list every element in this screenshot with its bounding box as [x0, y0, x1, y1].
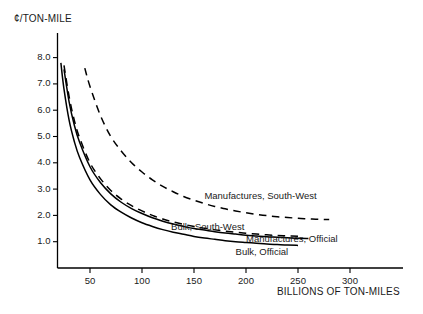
y-tick-label: 4.0 — [25, 156, 51, 167]
series-label: Manufactures, South-West — [204, 190, 316, 201]
x-tick-label: 50 — [72, 275, 108, 286]
series-label: Bulk, Official — [236, 246, 289, 257]
x-tick-label: 300 — [332, 275, 368, 286]
y-tick-label: 3.0 — [25, 183, 51, 194]
y-tick-label: 8.0 — [25, 51, 51, 62]
y-tick-label: 1.0 — [25, 235, 51, 246]
y-tick-label: 7.0 — [25, 77, 51, 88]
x-tick-label: 150 — [176, 275, 212, 286]
axes — [58, 33, 404, 268]
x-tick-label: 250 — [280, 275, 316, 286]
series-label: Bulk, South-West — [171, 221, 244, 232]
series-curve — [64, 65, 298, 236]
series-label: Manufactures, Official — [246, 233, 338, 244]
data-series — [61, 63, 329, 246]
series-curve — [61, 63, 298, 246]
y-tick-label: 2.0 — [25, 209, 51, 220]
series-curve — [64, 69, 308, 238]
chart-figure: ¢/TON-MILE BILLIONS OF TON-MILES 1.02.03… — [0, 0, 423, 314]
x-tick-label: 200 — [228, 275, 264, 286]
plot-area — [0, 0, 423, 314]
x-tick-label: 100 — [124, 275, 160, 286]
y-tick-label: 5.0 — [25, 130, 51, 141]
y-tick-label: 6.0 — [25, 104, 51, 115]
